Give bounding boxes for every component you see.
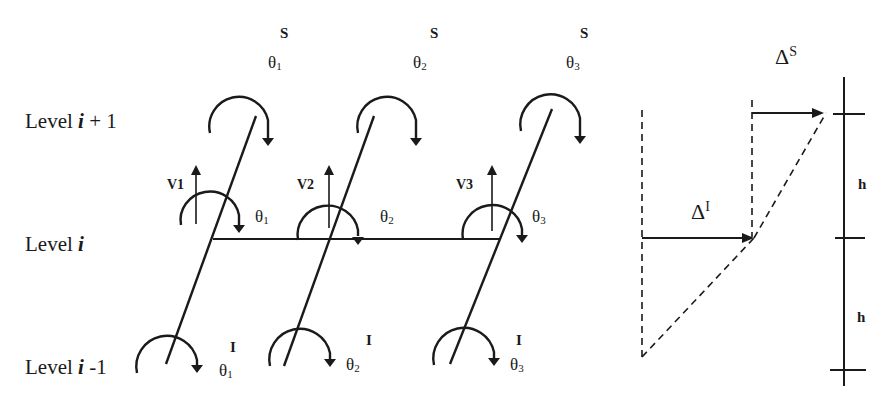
frame-diagram bbox=[0, 0, 896, 404]
deflected-shape-upper bbox=[754, 113, 826, 238]
top-rotation-3: θ3 bbox=[566, 54, 580, 72]
mid-rotation-2: θ2 bbox=[380, 208, 394, 226]
rotation-arc-top-2 bbox=[357, 97, 416, 138]
level-label-lower: Level i -1 bbox=[25, 357, 107, 378]
top-rotation-2-sup: S bbox=[430, 26, 438, 41]
delta-i-label: ΔI bbox=[691, 200, 710, 223]
bottom-rotation-3-sup: I bbox=[516, 333, 522, 348]
bottom-rotation-3: θ3 bbox=[510, 356, 524, 374]
bottom-rotation-2: θ2 bbox=[346, 356, 360, 374]
level-label-upper: Level i + 1 bbox=[25, 111, 117, 132]
top-rotation-1-sup: S bbox=[280, 26, 288, 41]
top-rotation-3-sup: S bbox=[580, 26, 588, 41]
bottom-rotation-1-sup: I bbox=[230, 340, 236, 355]
level-label-middle: Level i bbox=[25, 234, 84, 255]
mid-rotation-1: θ1 bbox=[255, 208, 269, 226]
shear-label-1: V1 bbox=[167, 178, 184, 192]
rotation-arc-top-1 bbox=[209, 97, 268, 138]
mid-rotation-3: θ3 bbox=[532, 208, 546, 226]
column-3 bbox=[450, 109, 552, 364]
shear-label-2: V2 bbox=[297, 178, 314, 192]
rotation-arc-bot-3 bbox=[433, 328, 494, 365]
top-rotation-2: θ2 bbox=[413, 54, 427, 72]
bottom-rotation-2-sup: I bbox=[366, 333, 372, 348]
story-height-lower: h bbox=[857, 310, 865, 325]
bottom-rotation-1: θ1 bbox=[219, 362, 233, 380]
deflected-shape-lower bbox=[642, 238, 754, 357]
shear-label-3: V3 bbox=[456, 178, 473, 192]
rotation-arc-mid-1 bbox=[181, 192, 239, 225]
story-height-upper: h bbox=[858, 177, 866, 192]
rotation-arc-bot-1 bbox=[136, 336, 197, 373]
rotation-arc-mid-2 bbox=[298, 206, 358, 240]
top-rotation-1: θ1 bbox=[268, 54, 282, 72]
delta-s-label: ΔS bbox=[775, 45, 797, 68]
rotation-arc-bot-2 bbox=[269, 329, 330, 366]
